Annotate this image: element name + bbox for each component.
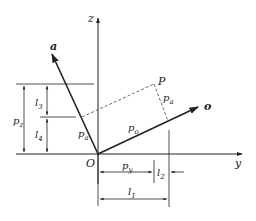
l3-label: l3 bbox=[35, 97, 43, 111]
l2-label: l2 bbox=[157, 167, 165, 181]
y-axis-label: y bbox=[234, 157, 242, 170]
point-p-label: P bbox=[157, 75, 166, 88]
vector-a bbox=[52, 54, 98, 154]
projection-to-a bbox=[82, 84, 154, 117]
pa-perp-label: pa bbox=[163, 92, 174, 106]
vector-o-label: o bbox=[204, 100, 211, 113]
l4-label: l4 bbox=[35, 129, 43, 143]
vector-o bbox=[98, 107, 198, 154]
po-label: po bbox=[128, 122, 139, 136]
vector-a-label: a bbox=[50, 40, 57, 53]
l1-label: l1 bbox=[128, 186, 136, 200]
origin-label: O bbox=[86, 157, 95, 170]
z-axis-label: z bbox=[87, 12, 94, 25]
coordinate-diagram: z y O a o P pa pa po pz l3 l4 py l2 l1 bbox=[0, 0, 256, 221]
pz-label: pz bbox=[13, 115, 23, 129]
